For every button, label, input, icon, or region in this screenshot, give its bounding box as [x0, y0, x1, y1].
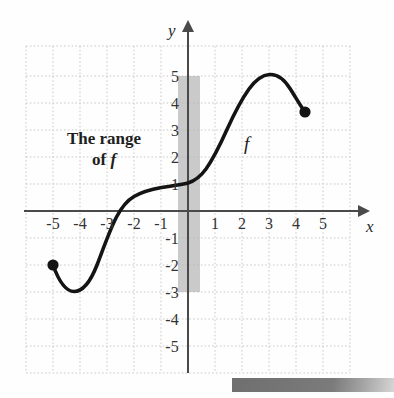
right-endpoint-dot	[299, 106, 310, 117]
y-tick-label-5: 5	[166, 69, 184, 85]
y-tick-label--5: -5	[160, 339, 184, 355]
left-endpoint-dot	[47, 259, 58, 270]
x-tick-label-3: 3	[259, 216, 279, 232]
x-tick-label-5: 5	[313, 216, 333, 232]
y-axis-label: y	[168, 22, 176, 39]
range-annotation-line2: of f	[44, 150, 164, 171]
range-annotation-of: of	[92, 150, 110, 169]
y-tick-label-1: 1	[166, 177, 184, 193]
x-tick-label-1: 1	[205, 216, 225, 232]
x-tick-label-2: 2	[232, 216, 252, 232]
x-tick-label--4: -4	[70, 216, 90, 232]
x-tick-label-4: 4	[286, 216, 306, 232]
function-graph-figure: -5 -4 -3 -2 -1 1 2 3 4 5 5 4 3 2 1 -1 -2…	[0, 0, 394, 398]
y-tick-label--4: -4	[160, 312, 184, 328]
y-axis-arrowhead	[182, 20, 194, 32]
x-tick-label--2: -2	[124, 216, 144, 232]
y-tick-label--1: -1	[160, 231, 184, 247]
y-tick-label-4: 4	[166, 96, 184, 112]
y-tick-label--2: -2	[160, 258, 184, 274]
y-tick-label--3: -3	[160, 285, 184, 301]
scan-edge-artifact	[232, 378, 394, 392]
curve-label-f: f	[244, 134, 249, 153]
range-annotation-line1: The range	[44, 129, 164, 150]
plot-canvas	[0, 0, 394, 398]
x-axis-label: x	[366, 218, 374, 235]
x-tick-label--3: -3	[97, 216, 117, 232]
x-tick-label--5: -5	[43, 216, 63, 232]
range-annotation: The range of f	[44, 129, 164, 170]
x-axis-arrowhead	[358, 205, 370, 217]
y-tick-label-2: 2	[166, 150, 184, 166]
y-tick-label-3: 3	[166, 123, 184, 139]
range-annotation-symbol: f	[110, 150, 116, 169]
